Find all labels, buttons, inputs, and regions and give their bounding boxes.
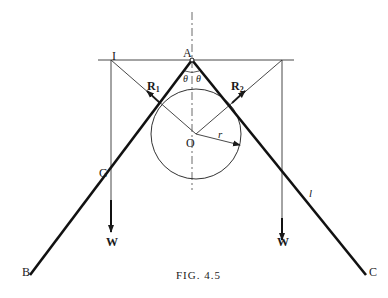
- label-O: O: [186, 137, 195, 149]
- label-R1: R1: [147, 80, 160, 94]
- label-R2: R2: [231, 80, 244, 94]
- label-theta-left: θ: [183, 74, 188, 84]
- label-C: C: [369, 266, 377, 278]
- label-W-left: W: [106, 236, 118, 248]
- label-r: r: [218, 129, 222, 140]
- figure-4-5: I A θ θ R1 R2 O r G W W l B C FIG. 4.5: [0, 0, 388, 298]
- label-theta-right: θ: [196, 74, 201, 84]
- label-G: G: [99, 167, 108, 179]
- label-W-right: W: [277, 236, 289, 248]
- label-B: B: [22, 266, 30, 278]
- figure-caption: FIG. 4.5: [176, 270, 221, 281]
- label-A: A: [183, 47, 192, 59]
- label-l: l: [309, 188, 312, 199]
- label-I: I: [112, 50, 116, 62]
